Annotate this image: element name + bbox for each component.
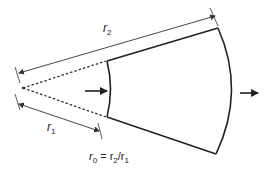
r1-label: r1	[47, 120, 56, 136]
dashed-line-top	[23, 61, 106, 88]
dashed-line-bottom	[23, 88, 106, 117]
sector-bottom-edge	[107, 117, 216, 154]
r2-label: r2	[103, 21, 112, 37]
sector-top-edge	[107, 28, 218, 61]
sector-diagram: r2 r1 r0 = r2/r1	[0, 0, 272, 177]
r2-tick-left	[15, 67, 20, 83]
r1-tick-left	[15, 94, 20, 110]
outer-arc	[216, 28, 232, 154]
r2-dimension	[15, 8, 218, 83]
annular-sector	[107, 28, 232, 154]
dashed-extension-lines	[22, 61, 106, 117]
r2-dimension-line	[19, 16, 215, 73]
ratio-formula: r0 = r2/r1	[89, 150, 130, 165]
apex-point	[22, 87, 24, 89]
r1-dimension-line	[19, 104, 99, 131]
inner-arc	[107, 61, 111, 117]
